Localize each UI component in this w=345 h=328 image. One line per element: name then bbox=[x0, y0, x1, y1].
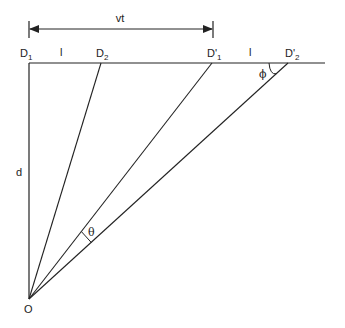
label-d: d bbox=[16, 166, 22, 178]
label-d1prime: D'1 bbox=[207, 47, 222, 62]
label-o: O bbox=[24, 303, 33, 315]
label-d2prime: D'2 bbox=[285, 47, 300, 62]
ray-o-d2prime bbox=[29, 63, 288, 299]
ray-o-d1prime bbox=[29, 63, 212, 299]
label-l-right: l bbox=[249, 46, 251, 58]
label-d2: D2 bbox=[96, 47, 109, 62]
vt-label: vt bbox=[116, 12, 125, 24]
label-d1: D1 bbox=[20, 47, 33, 62]
theta-label: θ bbox=[88, 226, 95, 239]
phi-arc bbox=[269, 63, 276, 74]
label-l-left: l bbox=[60, 46, 62, 58]
phi-label: ϕ bbox=[259, 68, 267, 81]
ray-o-d2 bbox=[29, 63, 101, 299]
geometry-diagram: vt θ ϕ D1 l D2 D'1 l D'2 d O bbox=[0, 0, 345, 328]
vt-dimension: vt bbox=[29, 12, 213, 38]
